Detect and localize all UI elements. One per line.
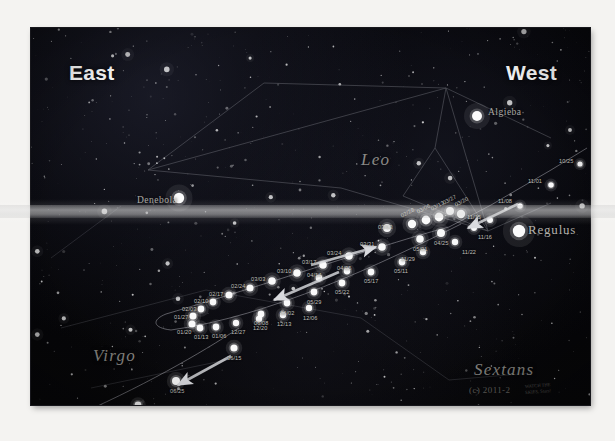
star-name-denebola: Denebola <box>137 195 177 205</box>
date-label: 05/29 <box>307 299 322 305</box>
date-label: 01/20 <box>177 329 192 335</box>
date-label: 02/10 <box>194 298 209 304</box>
date-label: 06/08 <box>254 320 269 326</box>
constellation-label-sextans: Sextans <box>474 360 534 380</box>
date-label: 01/27 <box>174 314 189 320</box>
constellation-label-virgo: Virgo <box>93 346 136 366</box>
date-label: 03/13 <box>378 224 393 230</box>
date-label: 05/01 <box>413 246 428 252</box>
date-label: 06/25 <box>170 388 185 394</box>
star-name-algieba: Algieba <box>488 107 522 117</box>
date-label: 06/02 <box>280 310 295 316</box>
date-label: 05/22 <box>335 289 350 295</box>
date-label: 11/08 <box>498 198 512 204</box>
date-label: 12/13 <box>277 321 292 327</box>
date-label: 11/16 <box>478 234 492 240</box>
copyright-text: (c) 2011-2 <box>469 385 510 395</box>
cardinal-east: East <box>69 61 115 85</box>
date-label: 01/13 <box>194 334 209 340</box>
date-label: 02/03 <box>182 306 197 312</box>
date-label: 04/05 <box>337 265 352 271</box>
date-label: 01/06 <box>212 333 227 339</box>
date-label: 05/11 <box>394 268 408 274</box>
date-label: 04/14 <box>307 272 322 278</box>
date-label: 11/29 <box>401 256 415 262</box>
sky-photo: 10/2511/0111/0811/1511/1611/2211/2903/20… <box>31 28 590 405</box>
date-label: 02/24 <box>231 283 246 289</box>
date-label: 10/25 <box>559 158 574 164</box>
date-label: 03/17 <box>302 259 317 265</box>
date-label: 12/06 <box>303 315 318 321</box>
date-label: 03/10 <box>277 268 292 274</box>
date-label: 04/25 <box>434 240 449 246</box>
date-label: 02/17 <box>209 291 224 297</box>
date-label: 12/27 <box>231 329 246 335</box>
credit-signature: WATCH THESKIES, Stars! <box>525 382 552 395</box>
date-label: 03/03 <box>251 276 266 282</box>
date-label: 05/17 <box>364 278 379 284</box>
date-label: 03/24 <box>327 250 342 256</box>
cardinal-west: West <box>506 61 557 85</box>
constellation-label-leo: Leo <box>361 150 390 170</box>
date-label: 11/15 <box>467 214 481 220</box>
date-label: 11/22 <box>462 249 476 255</box>
star-chart-page: 10/2511/0111/0811/1511/1611/2211/2903/20… <box>0 0 615 441</box>
date-label: 11/01 <box>528 178 542 184</box>
date-label: 06/15 <box>227 355 242 361</box>
date-label: 03/31 <box>360 241 375 247</box>
star-name-regulus: Regulus <box>528 222 576 238</box>
